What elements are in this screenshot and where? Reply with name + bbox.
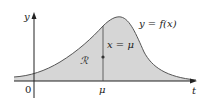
- mu-tick-label: μ: [99, 84, 106, 95]
- origin-label: 0: [25, 84, 31, 95]
- centroid-point: [101, 55, 104, 58]
- line-label: x = μ: [107, 39, 134, 50]
- t-axis-label: t: [192, 85, 197, 96]
- curve-label: y = f(x): [138, 18, 177, 29]
- y-axis-arrow-icon: [32, 12, 37, 19]
- area-under-curve-diagram: y t 0 μ y = f(x) x = μ ℛ: [0, 0, 210, 104]
- y-axis-label: y: [23, 11, 30, 22]
- region-label: ℛ: [80, 55, 89, 66]
